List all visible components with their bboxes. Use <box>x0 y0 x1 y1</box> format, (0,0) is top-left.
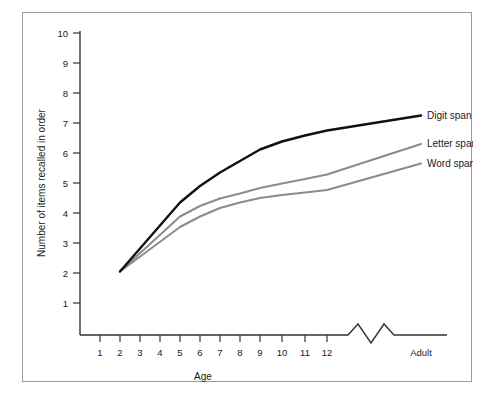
y-axis-ticks <box>73 33 80 303</box>
x-tick-label-adult: Adult <box>410 347 432 358</box>
y-tick-label-1: 1 <box>63 298 68 309</box>
legend-label-word-span: Word span <box>427 158 473 169</box>
x-tick-label-3: 3 <box>137 347 142 358</box>
y-tick-label-2: 2 <box>63 268 68 279</box>
x-axis-ticks <box>100 335 327 342</box>
y-axis-title: Number of items recalled in order <box>36 108 47 257</box>
series-line-word-span <box>120 164 421 272</box>
legend-label-digit-span: Digit span <box>427 110 471 121</box>
x-tick-label-4: 4 <box>157 347 162 358</box>
figure-frame: 10 9 8 7 6 5 4 3 2 1 Number of items rec… <box>22 12 472 382</box>
x-axis-line-with-break <box>80 324 447 343</box>
y-tick-label-6: 6 <box>63 148 68 159</box>
x-tick-label-7: 7 <box>217 347 222 358</box>
x-tick-label-2: 2 <box>117 347 122 358</box>
x-tick-label-1: 1 <box>97 347 102 358</box>
y-tick-label-7: 7 <box>63 118 68 129</box>
x-tick-label-10: 10 <box>277 347 288 358</box>
x-axis-title: Age <box>194 371 212 382</box>
y-axis-tick-labels: 10 9 8 7 6 5 4 3 2 1 <box>57 28 68 309</box>
legend-label-letter-span: Letter span <box>427 138 473 149</box>
y-tick-label-3: 3 <box>63 238 68 249</box>
y-tick-label-10: 10 <box>57 28 68 39</box>
y-axis: 10 9 8 7 6 5 4 3 2 1 Number of items rec… <box>36 28 80 336</box>
y-tick-label-4: 4 <box>63 208 68 219</box>
y-tick-label-5: 5 <box>63 178 68 189</box>
x-axis-tick-labels: 1 2 3 4 5 6 7 8 9 10 11 12 <box>97 347 332 358</box>
series-line-digit-span <box>120 116 421 272</box>
y-tick-label-8: 8 <box>63 88 68 99</box>
line-chart: 10 9 8 7 6 5 4 3 2 1 Number of items rec… <box>23 13 473 383</box>
x-tick-label-8: 8 <box>237 347 242 358</box>
series-lines <box>120 116 421 272</box>
legend: Digit span Letter span Word span <box>427 110 473 169</box>
y-tick-label-9: 9 <box>63 58 68 69</box>
x-tick-label-11: 11 <box>300 347 310 358</box>
x-tick-label-6: 6 <box>197 347 202 358</box>
x-tick-label-5: 5 <box>177 347 182 358</box>
x-tick-label-12: 12 <box>322 347 333 358</box>
x-tick-label-9: 9 <box>257 347 262 358</box>
x-axis: 1 2 3 4 5 6 7 8 9 10 11 12 Adult Age <box>80 324 447 382</box>
series-line-letter-span <box>120 144 421 272</box>
chart-page: 10 9 8 7 6 5 4 3 2 1 Number of items rec… <box>0 0 497 405</box>
